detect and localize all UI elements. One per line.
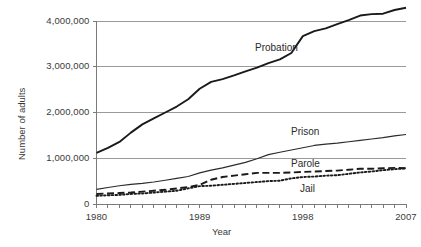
y-axis-tick-label: 0 bbox=[84, 198, 89, 209]
y-axis-tick-label: 1,000,000 bbox=[46, 152, 89, 163]
x-axis-tick-label: 1998 bbox=[263, 211, 343, 222]
y-axis-tick-label: 3,000,000 bbox=[46, 60, 89, 71]
series-label-jail: Jail bbox=[300, 183, 315, 194]
x-axis-title: Year bbox=[212, 226, 231, 237]
y-axis-tick-label: 4,000,000 bbox=[46, 15, 89, 26]
y-axis-tick-label: 2,000,000 bbox=[46, 106, 89, 117]
series-label-probation: Probation bbox=[255, 42, 298, 53]
series-label-prison: Prison bbox=[291, 126, 319, 137]
x-axis-tick-label: 1989 bbox=[160, 211, 240, 222]
y-axis-title: Number of adults bbox=[16, 88, 27, 160]
x-axis-tick-label: 2007 bbox=[366, 211, 421, 222]
x-axis-tick-label: 1980 bbox=[57, 211, 137, 222]
series-label-parole: Parole bbox=[291, 158, 320, 169]
